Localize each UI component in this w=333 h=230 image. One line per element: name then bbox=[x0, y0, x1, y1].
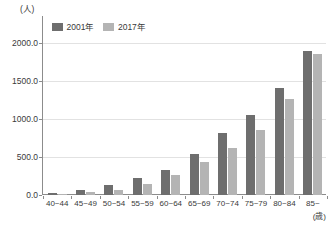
y-tick-mark bbox=[39, 157, 42, 158]
y-tick-label: 1000.0 bbox=[0, 114, 38, 124]
y-tick-label: 2000.0 bbox=[0, 38, 38, 48]
x-tick-mark bbox=[270, 196, 271, 199]
bar[interactable] bbox=[228, 148, 237, 195]
y-tick-label: 500.0 bbox=[0, 152, 38, 162]
x-tick-mark bbox=[242, 196, 243, 199]
x-tick-mark bbox=[71, 196, 72, 199]
bar-group bbox=[43, 16, 71, 195]
bar[interactable] bbox=[58, 194, 67, 195]
bar-group bbox=[213, 16, 241, 195]
bar[interactable] bbox=[114, 190, 123, 195]
bar[interactable] bbox=[76, 190, 85, 195]
x-tick-label: 50~54 bbox=[103, 199, 125, 208]
bar-group bbox=[100, 16, 128, 195]
x-tick-mark bbox=[157, 196, 158, 199]
bar[interactable] bbox=[48, 193, 57, 195]
bar-group bbox=[299, 16, 327, 195]
bar-chart: (人) 0.0500.01000.01500.02000.0 2001年2017… bbox=[0, 0, 333, 230]
y-tick-mark bbox=[39, 81, 42, 82]
bar[interactable] bbox=[218, 133, 227, 195]
x-tick-label: 85~ bbox=[306, 199, 320, 208]
bar[interactable] bbox=[86, 192, 95, 195]
x-tick-label: 40~44 bbox=[46, 199, 68, 208]
y-tick-mark bbox=[39, 43, 42, 44]
y-axis-unit-label: (人) bbox=[20, 2, 34, 14]
bar[interactable] bbox=[285, 99, 294, 195]
x-tick-label: 60~64 bbox=[160, 199, 182, 208]
bar[interactable] bbox=[275, 88, 284, 195]
bar-group bbox=[157, 16, 185, 195]
bar-group bbox=[71, 16, 99, 195]
x-tick-mark bbox=[100, 196, 101, 199]
x-tick-mark bbox=[43, 196, 44, 199]
x-tick-mark bbox=[185, 196, 186, 199]
bar[interactable] bbox=[313, 54, 322, 195]
bar[interactable] bbox=[171, 175, 180, 195]
x-tick-label: 75~79 bbox=[245, 199, 267, 208]
x-tick-label: 70~74 bbox=[216, 199, 238, 208]
y-tick-mark bbox=[39, 119, 42, 120]
bar[interactable] bbox=[161, 170, 170, 195]
bar[interactable] bbox=[200, 162, 209, 195]
x-tick-mark bbox=[128, 196, 129, 199]
y-tick-label: 1500.0 bbox=[0, 76, 38, 86]
x-tick-label: 55~59 bbox=[131, 199, 153, 208]
bar-group bbox=[270, 16, 298, 195]
x-tick-mark bbox=[299, 196, 300, 199]
x-axis-tick-labels: (歳) 40~4445~4950~5455~5960~6465~6970~747… bbox=[43, 196, 326, 228]
y-tick-label: 0.0 bbox=[0, 190, 38, 200]
x-tick-mark bbox=[213, 196, 214, 199]
bar-group bbox=[242, 16, 270, 195]
x-tick-label: 45~49 bbox=[74, 199, 96, 208]
x-tick-mark bbox=[327, 196, 328, 199]
bar-group bbox=[128, 16, 156, 195]
bar-group bbox=[185, 16, 213, 195]
x-axis-unit-label: (歳) bbox=[313, 210, 326, 221]
bar[interactable] bbox=[190, 154, 199, 196]
bar[interactable] bbox=[256, 130, 265, 196]
bar[interactable] bbox=[104, 185, 113, 195]
x-tick-label: 80~84 bbox=[273, 199, 295, 208]
bar[interactable] bbox=[246, 115, 255, 195]
y-tick-mark bbox=[39, 195, 42, 196]
x-tick-label: 65~69 bbox=[188, 199, 210, 208]
bar[interactable] bbox=[303, 51, 312, 195]
bar[interactable] bbox=[133, 178, 142, 195]
bar[interactable] bbox=[143, 184, 152, 195]
bars-layer bbox=[43, 16, 326, 195]
